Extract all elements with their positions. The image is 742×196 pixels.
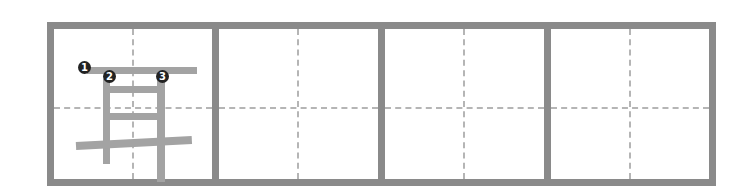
stroke-3	[157, 79, 165, 182]
practice-grid: 1 2 3	[47, 22, 716, 186]
cell-divider	[212, 29, 219, 179]
vertical-guide-line	[297, 29, 299, 179]
practice-cell[interactable]	[219, 29, 378, 179]
stroke-inner-mid	[103, 113, 163, 120]
horizontal-guide-line	[219, 107, 378, 109]
vertical-guide-line	[629, 29, 631, 179]
practice-cell[interactable]	[551, 29, 709, 179]
horizontal-guide-line	[385, 107, 544, 109]
cell-divider	[378, 29, 385, 179]
example-cell: 1 2 3	[54, 29, 212, 179]
vertical-guide-line	[132, 29, 134, 179]
stroke-order-label-2: 2	[103, 70, 116, 83]
horizontal-guide-line	[551, 107, 709, 109]
horizontal-guide-line	[54, 107, 212, 109]
cell-divider	[544, 29, 551, 179]
stroke-inner-top	[103, 86, 163, 93]
stroke-order-label-3: 3	[156, 70, 169, 83]
stroke-order-label-1: 1	[78, 61, 91, 74]
vertical-guide-line	[463, 29, 465, 179]
practice-cell[interactable]	[385, 29, 544, 179]
